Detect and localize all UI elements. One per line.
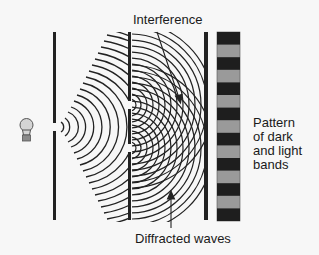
- light-bulb-icon: [20, 119, 33, 142]
- diffracted-waves-label: Diffracted waves: [135, 232, 231, 246]
- pattern-label: Pattern of dark and light bands: [253, 116, 302, 172]
- screen-barrier: [204, 32, 208, 220]
- dark-band: [217, 82, 240, 95]
- diffracted-waves-arrow: [168, 191, 175, 228]
- dark-band: [217, 108, 240, 121]
- dark-band: [217, 158, 240, 171]
- dark-band: [217, 32, 240, 45]
- double-slit-diagram: Interference Pattern of dark and light b…: [0, 0, 319, 255]
- double-slit-barrier: [128, 32, 131, 220]
- dark-band: [217, 57, 240, 70]
- interference-band-pattern: [217, 32, 240, 221]
- interference-label: Interference: [133, 13, 202, 27]
- dark-band: [217, 183, 240, 196]
- dark-band: [217, 208, 240, 221]
- dark-band: [217, 133, 240, 146]
